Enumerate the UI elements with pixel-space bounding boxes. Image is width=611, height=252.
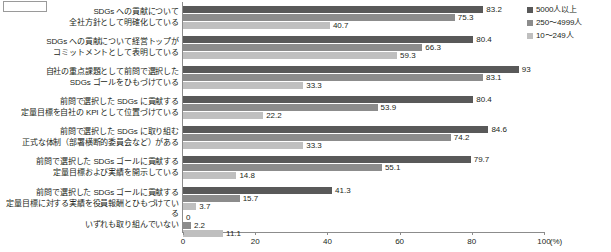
- bar-group: 80.453.922.2: [182, 96, 545, 119]
- category-label: 前問で選択した SDGs に貢献する 定量目標を自社の KPI として位置づけて…: [1, 97, 179, 118]
- bar-fill: [183, 14, 455, 21]
- bar-fill: [183, 22, 330, 29]
- bar-fill: [183, 126, 488, 133]
- bar: 79.7: [183, 156, 546, 163]
- x-axis-tick-label: 80: [467, 237, 476, 247]
- bar: 84.6: [183, 126, 546, 133]
- bar-fill: [183, 195, 240, 202]
- bar-fill: [183, 142, 303, 149]
- bar: 93: [183, 66, 546, 73]
- bar-value-label: 83.2: [483, 5, 502, 14]
- bar-fill: [183, 52, 397, 59]
- bar: 80.4: [183, 96, 546, 103]
- category-label: 前問で選択した SDGs ゴールに貢献する 定量目標および実績を開示している: [1, 157, 179, 178]
- bar-group: 80.466.359.3: [182, 36, 545, 59]
- x-axis-tick-label: 60: [395, 237, 404, 247]
- bar-fill: [183, 96, 473, 103]
- bar-value-label: 40.7: [330, 21, 349, 30]
- bar-value-label: 83.1: [483, 73, 502, 82]
- bar: 75.3: [183, 14, 546, 21]
- x-axis-tick-label: 20: [251, 237, 260, 247]
- bar-fill: [183, 112, 263, 119]
- grouped-bar-chart: 5000人以上250〜4999人10〜249人 SDGs への貢献について 全社…: [0, 0, 611, 252]
- bar-group: 41.315.73.7: [182, 187, 545, 210]
- bar-fill: [183, 222, 191, 229]
- bar-fill: [183, 104, 378, 111]
- category-label: 自社の重点課題として前問で選択した SDGs ゴールをひもづけている: [1, 67, 179, 88]
- bar-group: 84.674.233.3: [182, 126, 545, 149]
- bar: 55.1: [183, 164, 546, 171]
- bar-fill: [183, 156, 471, 163]
- bar: 33.3: [183, 142, 546, 149]
- bar-value-label: 2.2: [191, 221, 205, 230]
- bar: 59.3: [183, 52, 546, 59]
- bar-value-label: 55.1: [382, 163, 401, 172]
- x-axis-tick: [255, 232, 256, 235]
- bar: 53.9: [183, 104, 546, 111]
- x-axis-tick: [400, 232, 401, 235]
- bar-fill: [183, 203, 196, 210]
- x-axis-tick-label: 100: [537, 237, 550, 247]
- bar-value-label: 11.1: [223, 229, 241, 238]
- bar: 83.2: [183, 6, 546, 13]
- bar-fill: [183, 66, 519, 73]
- bar: 0: [183, 214, 546, 221]
- bar: 80.4: [183, 36, 546, 43]
- bar-fill: [183, 164, 382, 171]
- bar-value-label: 74.2: [451, 133, 470, 142]
- bar-fill: [183, 6, 483, 13]
- category-label: SDGs への貢献について経営トップが コミットメントとして表明している: [1, 37, 179, 58]
- x-axis-tick: [544, 232, 545, 235]
- bar-group: 83.275.340.7: [182, 6, 545, 29]
- bar: 11.1: [183, 230, 546, 237]
- bar: 3.7: [183, 203, 546, 210]
- bar-value-label: 75.3: [455, 13, 474, 22]
- bar-fill: [183, 82, 303, 89]
- category-axis-labels: SDGs への貢献について 全社方針として明確化しているSDGs への貢献につい…: [0, 2, 179, 232]
- bar: 41.3: [183, 187, 546, 194]
- bar-value-label: 79.7: [471, 155, 490, 164]
- x-axis-tick: [472, 232, 473, 235]
- bar-value-label: 53.9: [378, 103, 397, 112]
- bar: 83.1: [183, 74, 546, 81]
- bar-fill: [183, 134, 451, 141]
- bar-value-label: 80.4: [473, 35, 492, 44]
- x-axis-tick: [183, 232, 184, 235]
- bar-value-label: 14.8: [236, 171, 255, 180]
- bar: 22.2: [183, 112, 546, 119]
- bar-group: 9383.133.3: [182, 66, 545, 89]
- bar-value-label: 93: [519, 65, 531, 74]
- x-axis-tick: [327, 232, 328, 235]
- plot-area: 83.275.340.780.466.359.39383.133.380.453…: [182, 2, 545, 232]
- bar: 15.7: [183, 195, 546, 202]
- x-axis-tick-label: 40: [323, 237, 332, 247]
- bar-value-label: 22.2: [263, 111, 282, 120]
- bar-fill: [183, 36, 473, 43]
- bar-value-label: 41.3: [332, 186, 351, 195]
- bar-fill: [183, 187, 332, 194]
- x-axis-tick-label: 0: [181, 237, 185, 247]
- bar: 33.3: [183, 82, 546, 89]
- x-axis-unit-label: (%): [550, 237, 562, 247]
- bar-fill: [183, 230, 223, 237]
- bar-value-label: 80.4: [473, 95, 492, 104]
- bar-group: 02.211.1: [182, 214, 545, 237]
- bar-fill: [183, 44, 422, 51]
- category-label: SDGs への貢献について 全社方針として明確化している: [1, 7, 179, 28]
- bar-value-label: 15.7: [240, 194, 259, 203]
- bar-value-label: 84.6: [488, 125, 507, 134]
- bar: 66.3: [183, 44, 546, 51]
- bar-value-label: 59.3: [397, 51, 416, 60]
- category-label: いずれも取り組んでいない: [1, 220, 179, 231]
- bar-value-label: 33.3: [303, 81, 322, 90]
- bar-value-label: 33.3: [303, 141, 322, 150]
- bar: 74.2: [183, 134, 546, 141]
- bar-fill: [183, 172, 236, 179]
- category-label: 前問で選択した SDGs ゴールに貢献する 定量目標に対する実績を役員報酬とひも…: [1, 188, 179, 220]
- bar-fill: [183, 74, 483, 81]
- bar: 14.8: [183, 172, 546, 179]
- bar-value-label: 66.3: [422, 43, 441, 52]
- category-label: 前問で選択した SDGs に取り組む 正式な体制（部署横断的委員会など）がある: [1, 127, 179, 148]
- bar-value-label: 3.7: [196, 202, 210, 211]
- bar-group: 79.755.114.8: [182, 156, 545, 179]
